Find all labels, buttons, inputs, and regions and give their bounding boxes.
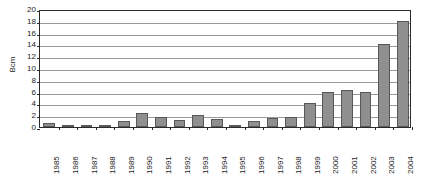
x-axis-tick-label: 2000 — [331, 130, 340, 174]
bar — [62, 125, 74, 127]
y-axis-tick-label: 16 — [14, 30, 36, 38]
bar — [136, 113, 148, 127]
y-axis-tick-label: 4 — [14, 100, 36, 108]
bar — [211, 119, 223, 127]
y-axis-tick-labels: 02468101214161820 — [14, 6, 36, 130]
bar-slot — [375, 11, 394, 127]
bar — [229, 125, 241, 127]
bar — [118, 121, 130, 127]
bar — [397, 21, 409, 127]
x-axis-tick-label: 1998 — [294, 130, 303, 174]
bar-slot — [133, 11, 152, 127]
x-axis-tick-label: 2004 — [406, 130, 415, 174]
bar-slot — [300, 11, 319, 127]
bar — [43, 123, 55, 127]
x-axis-tick-label: 1988 — [108, 130, 117, 174]
bar — [341, 90, 353, 127]
bar-slot — [356, 11, 375, 127]
bar-slot — [245, 11, 264, 127]
bar-slot — [319, 11, 338, 127]
bar — [360, 92, 372, 127]
y-axis-tick-label: 20 — [14, 6, 36, 14]
x-axis-tick-label: 2003 — [387, 130, 396, 174]
x-axis-tick-label: 1993 — [201, 130, 210, 174]
bar-slot — [170, 11, 189, 127]
bar-slot — [282, 11, 301, 127]
y-axis-tick-label: 2 — [14, 112, 36, 120]
bar-slot — [96, 11, 115, 127]
bar — [155, 117, 167, 127]
y-axis-tick-label: 6 — [14, 89, 36, 97]
bar-slot — [152, 11, 171, 127]
x-axis-tick-label: 1985 — [52, 130, 61, 174]
bar-slot — [114, 11, 133, 127]
x-axis-tick-label: 1989 — [127, 130, 136, 174]
bar — [378, 44, 390, 127]
y-axis-tick-label: 12 — [14, 53, 36, 61]
bar-slot — [189, 11, 208, 127]
y-axis-tick-label: 14 — [14, 41, 36, 49]
x-axis-tick-label: 2001 — [350, 130, 359, 174]
bar-slot — [226, 11, 245, 127]
bar-slot — [40, 11, 59, 127]
plot-area — [39, 10, 411, 128]
bar-slot — [77, 11, 96, 127]
x-axis-tick-label: 1987 — [90, 130, 99, 174]
bar-slot — [393, 11, 412, 127]
bar — [322, 92, 334, 127]
bar — [99, 125, 111, 127]
y-axis-tick-label: 10 — [14, 65, 36, 73]
bar — [267, 118, 279, 127]
bar — [174, 120, 186, 127]
x-axis-tick-label: 1986 — [71, 130, 80, 174]
y-axis-tick-label: 18 — [14, 18, 36, 26]
bar-chart: Bcm 02468101214161820 198519861987198819… — [0, 0, 424, 179]
x-axis-tick-label: 1996 — [257, 130, 266, 174]
bar — [192, 115, 204, 127]
bar — [248, 121, 260, 127]
bar-slot — [59, 11, 78, 127]
x-axis-tick-label: 1997 — [276, 130, 285, 174]
x-axis-tick-label: 1991 — [164, 130, 173, 174]
x-axis-tick-label: 1995 — [238, 130, 247, 174]
x-axis-tick-label: 2002 — [369, 130, 378, 174]
x-axis-tick-label: 1990 — [145, 130, 154, 174]
bar-slot — [263, 11, 282, 127]
bar-series — [40, 11, 410, 127]
bar-slot — [338, 11, 357, 127]
bar — [285, 117, 297, 127]
x-axis-tick-label: 1999 — [313, 130, 322, 174]
x-axis-tick-labels: 1985198619871988198919901991199219931994… — [39, 130, 411, 176]
y-axis-tick-label: 0 — [14, 124, 36, 132]
y-axis-tick-label: 8 — [14, 77, 36, 85]
bar-slot — [207, 11, 226, 127]
bar — [304, 103, 316, 127]
x-axis-tick-label: 1992 — [183, 130, 192, 174]
x-axis-tick-label: 1994 — [220, 130, 229, 174]
bar — [81, 125, 93, 127]
